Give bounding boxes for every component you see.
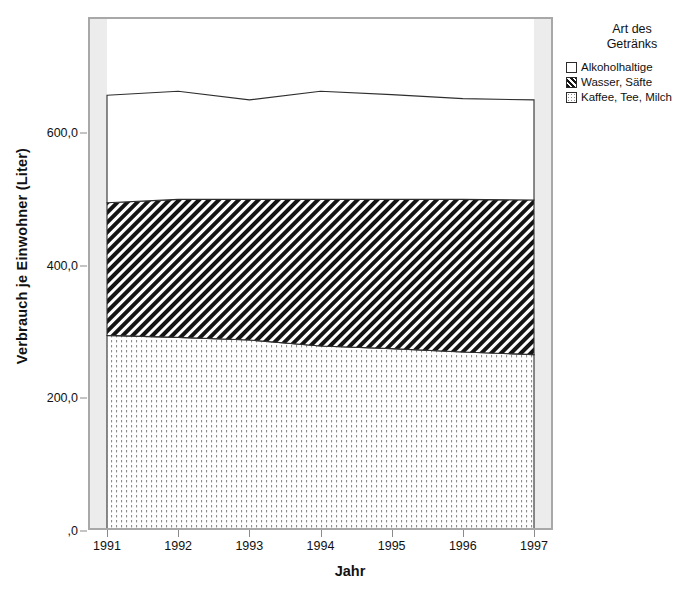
swatch-dotted-icon: [566, 92, 577, 103]
x-tick-label-5: 1996: [449, 539, 477, 553]
area-series-1: [107, 199, 534, 354]
plot-gutter-left: [90, 19, 107, 528]
legend-item-label: Alkoholhaltige: [581, 61, 653, 74]
legend-item: Wasser, Säfte: [566, 76, 698, 89]
y-tick-mark-2: [80, 265, 87, 266]
x-tick-mark-4: [392, 530, 393, 537]
chart-figure: Verbrauch je Einwohner (Liter) ,0200,040…: [0, 0, 700, 600]
x-tick-mark-5: [463, 530, 464, 537]
y-tick-label-1: 200,0: [47, 391, 78, 405]
stacked-area-svg: [90, 19, 551, 528]
x-tick-mark-2: [249, 530, 250, 537]
x-tick-label-0: 1991: [93, 539, 121, 553]
legend-item: Alkoholhaltige: [566, 61, 698, 74]
y-axis-title: Verbrauch je Einwohner (Liter): [14, 56, 30, 456]
y-tick-mark-0: [80, 531, 87, 532]
area-series-0: [107, 335, 534, 528]
x-tick-label-1: 1992: [164, 539, 192, 553]
x-tick-label-4: 1995: [378, 539, 406, 553]
legend-item: Kaffee, Tee, Milch: [566, 91, 698, 104]
legend: Art des Getränks AlkoholhaltigeWasser, S…: [566, 22, 698, 106]
y-tick-label-0: ,0: [68, 524, 78, 538]
x-tick-mark-0: [107, 530, 108, 537]
swatch-empty-icon: [566, 62, 577, 73]
x-tick-label-2: 1993: [235, 539, 263, 553]
x-tick-label-3: 1994: [307, 539, 335, 553]
plot-inner: [90, 19, 551, 528]
legend-title: Art des Getränks: [566, 22, 698, 52]
x-axis-title: Jahr: [0, 563, 700, 579]
swatch-hatch-icon: [566, 77, 577, 88]
x-tick-label-6: 1997: [520, 539, 548, 553]
area-series-2: [107, 91, 534, 202]
y-tick-label-2: 400,0: [47, 259, 78, 273]
legend-item-label: Wasser, Säfte: [581, 76, 652, 89]
y-tick-mark-1: [80, 398, 87, 399]
x-tick-mark-6: [534, 530, 535, 537]
x-tick-mark-1: [178, 530, 179, 537]
x-tick-mark-3: [321, 530, 322, 537]
y-tick-mark-3: [80, 133, 87, 134]
plot-gutter-right: [534, 19, 551, 528]
plot-area: [88, 17, 553, 530]
y-tick-label-3: 600,0: [47, 126, 78, 140]
legend-items: AlkoholhaltigeWasser, SäfteKaffee, Tee, …: [566, 61, 698, 104]
legend-item-label: Kaffee, Tee, Milch: [581, 91, 672, 104]
